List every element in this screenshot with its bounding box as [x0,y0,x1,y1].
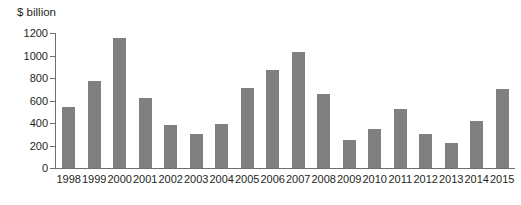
bar [394,109,407,168]
y-axis-tick-label-wrap: 200 [0,141,48,152]
bar [139,98,152,168]
bar [62,107,75,168]
bar [215,124,228,168]
y-axis-tick-label: 200 [2,141,48,152]
y-axis-tick-label-wrap: 1000 [0,51,48,62]
bar [445,143,458,168]
bar-chart: $ billion 020040060080010001200 19981999… [0,0,521,205]
bar [164,125,177,168]
y-axis-tick-label: 1200 [2,28,48,39]
bar [88,81,101,168]
y-axis-tick-label-wrap: 0 [0,163,48,174]
y-axis-tick-label-wrap: 600 [0,96,48,107]
bar [190,134,203,168]
y-axis-tick-label: 400 [2,118,48,129]
y-axis-tick-label: 600 [2,96,48,107]
bar [343,140,356,168]
y-axis-tick-label-wrap: 400 [0,118,48,129]
y-axis-tick-label: 800 [2,73,48,84]
bar [419,134,432,168]
bar [113,38,126,169]
y-axis-tick-label-wrap: 800 [0,73,48,84]
bar [368,129,381,168]
bar [496,89,509,168]
bar [292,52,305,168]
x-axis-line [55,168,515,169]
bar [266,70,279,168]
y-axis-tick-label: 0 [2,163,48,174]
bar [470,121,483,168]
x-axis-tick-label: 2015 [487,173,517,185]
y-axis-tick-label: 1000 [2,51,48,62]
bar [317,94,330,168]
plot-area [56,33,515,168]
y-axis-unit-label: $ billion [17,6,56,19]
bar [241,88,254,168]
y-axis-tick-label-wrap: 1200 [0,28,48,39]
